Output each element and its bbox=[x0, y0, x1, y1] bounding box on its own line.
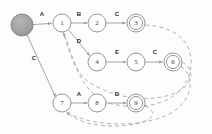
dashed-back-edges bbox=[63, 25, 191, 126]
state-diagram-svg: 1 2 3 4 5 6 7 8 9 A B C D E C C A D bbox=[0, 0, 212, 134]
edge-label-1-2: B bbox=[77, 11, 82, 17]
edge-start-to-1 bbox=[33, 23, 52, 24]
node-label-9: 9 bbox=[134, 99, 138, 107]
node-start[interactable] bbox=[11, 14, 33, 36]
diagram-canvas: 1 2 3 4 5 6 7 8 9 A B C D E C C A D bbox=[0, 0, 212, 134]
node-label-8: 8 bbox=[95, 99, 99, 107]
edge-label-5-6: C bbox=[153, 49, 158, 55]
node-label-4: 4 bbox=[95, 58, 99, 66]
node-label-3: 3 bbox=[134, 19, 138, 27]
node-label-5: 5 bbox=[134, 58, 138, 66]
edge-label-7-8: A bbox=[77, 91, 82, 97]
node-label-7: 7 bbox=[60, 99, 64, 107]
edge-label-4-5: E bbox=[115, 49, 119, 55]
edge-label-start-1: A bbox=[40, 11, 45, 17]
node-label-1: 1 bbox=[60, 19, 64, 27]
edge-label-2-3: C bbox=[115, 11, 120, 17]
edge-label-1-4: D bbox=[77, 38, 82, 44]
edge-start-to-7 bbox=[27, 35, 56, 97]
back-edge-6-to-7 bbox=[67, 66, 190, 124]
edge-label-start-7: C bbox=[32, 55, 37, 61]
node-label-6: 6 bbox=[171, 58, 175, 66]
node-label-2: 2 bbox=[95, 19, 99, 27]
edge-label-8-9: D bbox=[115, 91, 120, 97]
